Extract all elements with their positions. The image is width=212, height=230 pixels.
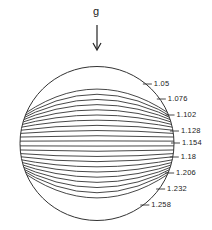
fringe-line bbox=[15, 165, 179, 188]
contour-label: 1.05 bbox=[154, 80, 169, 88]
contour-label: 1.258 bbox=[151, 201, 171, 209]
fringe-line bbox=[15, 136, 179, 137]
gravity-arrow-icon bbox=[93, 25, 101, 50]
fringe-line bbox=[15, 120, 179, 128]
fringe-line bbox=[15, 163, 179, 178]
contour-label: 1.102 bbox=[177, 111, 197, 119]
fringe-line bbox=[15, 131, 179, 134]
contour-label: 1.232 bbox=[167, 185, 187, 193]
fringe-line bbox=[15, 125, 179, 130]
contour-label: 1.206 bbox=[176, 169, 196, 177]
contour-label: 1.154 bbox=[182, 139, 202, 147]
fringe-line bbox=[15, 99, 179, 122]
fringe-line bbox=[15, 159, 179, 167]
contour-label: 1.18 bbox=[181, 153, 196, 161]
fringe-line bbox=[15, 150, 179, 151]
sample-circle-outline bbox=[20, 67, 174, 221]
contour-label: 1.128 bbox=[181, 127, 201, 135]
contour-lines bbox=[15, 89, 179, 198]
fringe-line bbox=[15, 156, 179, 161]
fringe-line bbox=[15, 153, 179, 156]
gravity-label: g bbox=[93, 6, 99, 17]
fringe-line bbox=[15, 110, 179, 125]
contour-label: 1.076 bbox=[168, 95, 188, 103]
